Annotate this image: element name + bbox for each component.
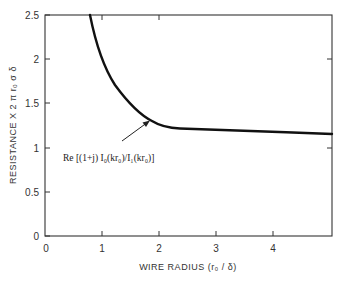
y-tick-labels: 0 0.5 1 1.5 2 2.5	[25, 10, 39, 242]
svg-text:2.5: 2.5	[25, 10, 39, 21]
svg-text:0.5: 0.5	[25, 187, 39, 198]
svg-text:2: 2	[156, 243, 162, 254]
svg-text:1.5: 1.5	[25, 98, 39, 109]
svg-text:0: 0	[33, 231, 39, 242]
svg-text:2: 2	[33, 54, 39, 65]
resistance-curve	[90, 15, 332, 134]
x-tick-labels: 0 1 2 3 4	[43, 243, 276, 254]
plot-frame	[45, 15, 332, 236]
y-axis-title: RESISTANCE X 2 π r₀ σ δ	[8, 66, 18, 184]
svg-text:1: 1	[99, 243, 105, 254]
annotation-arrow	[122, 121, 150, 142]
svg-text:4: 4	[270, 243, 276, 254]
y-axis-ticks	[45, 15, 332, 236]
chart: 0 0.5 1 1.5 2 2.5 0 1 2 3 4 WIRE RADIUS …	[0, 0, 342, 283]
x-axis-ticks	[102, 15, 273, 236]
svg-text:1: 1	[33, 143, 39, 154]
x-axis-title: WIRE RADIUS (r₀ / δ)	[139, 262, 237, 272]
svg-text:0: 0	[43, 243, 49, 254]
svg-text:3: 3	[213, 243, 219, 254]
curve-annotation: Re [(1+j) I₀(kr₀)/I₁(kr₀)]	[63, 153, 154, 164]
